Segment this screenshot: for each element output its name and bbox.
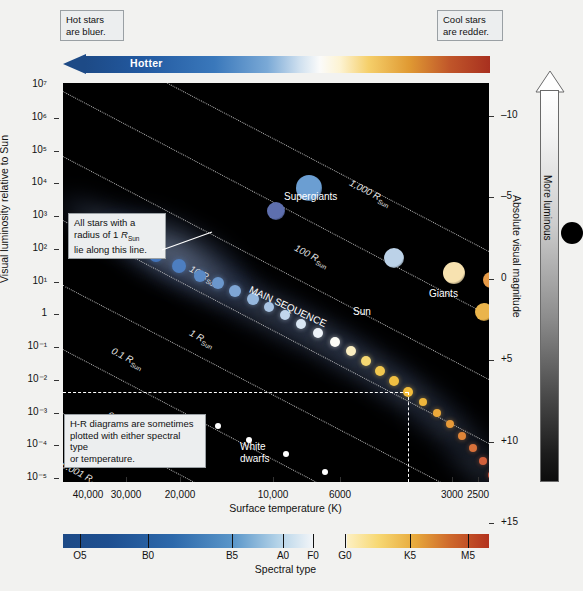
star-marker	[458, 432, 466, 440]
star-marker	[194, 270, 206, 282]
spectral-tick-mark	[283, 534, 284, 548]
x-tick-label: 30,000	[111, 489, 142, 500]
spectral-tick-mark	[313, 534, 314, 548]
y-tick-mark	[54, 347, 59, 348]
y-tick-label: 10¹	[33, 275, 47, 286]
right-tick-label: +15	[501, 516, 518, 527]
giants-label: Giants	[429, 288, 458, 299]
star-marker	[361, 356, 371, 366]
right-tick-label: 0	[501, 272, 507, 283]
star-marker	[229, 285, 241, 297]
star-marker	[267, 202, 285, 220]
spectral-type-label: B5	[226, 550, 238, 561]
spectral-type-label: B0	[142, 550, 154, 561]
spectral-type-title: Spectral type	[0, 563, 571, 575]
y-tick-label: 10⁷	[32, 78, 47, 89]
spectral-type-label: K5	[404, 550, 416, 561]
spectral-tick-mark	[410, 534, 411, 548]
star-marker	[375, 366, 385, 376]
x-tick-label: 10,000	[258, 489, 289, 500]
star-marker	[475, 303, 489, 321]
x-tick-mark	[340, 477, 341, 482]
x-tick-mark	[478, 477, 479, 482]
spectral-type-label: F0	[307, 550, 319, 561]
x-tick-label: 40,000	[73, 489, 104, 500]
spectral-tick-mark	[148, 534, 149, 548]
y-axis: Visual luminosity relative to Sun 10⁷10⁶…	[0, 83, 59, 482]
right-tick-label: –10	[501, 109, 518, 120]
x-tick-mark	[180, 477, 181, 482]
star-marker	[443, 262, 465, 284]
sun-label: Sun	[353, 306, 371, 317]
star-marker	[172, 259, 186, 273]
star-marker	[433, 409, 441, 417]
y-tick-mark	[54, 478, 59, 479]
star-marker	[212, 277, 224, 289]
x-axis: 40,00030,00020,00010,000600030002500	[0, 482, 571, 502]
spectral-type-label: O5	[73, 550, 86, 561]
right-tick-mark	[489, 116, 494, 117]
y-tick-label: 10²	[33, 242, 47, 253]
right-tick-mark	[489, 360, 494, 361]
y-tick-label: 10⁶	[32, 111, 47, 122]
y-tick-label: 10³	[33, 209, 47, 220]
spectral-bar-ob	[63, 534, 313, 548]
spectral-tick-mark	[345, 534, 346, 548]
star-marker	[446, 420, 454, 428]
ms-haze	[457, 465, 489, 482]
star-marker	[479, 457, 487, 465]
star-marker	[469, 444, 477, 452]
y-tick-mark	[54, 151, 59, 152]
sun-temperature-guide	[408, 392, 409, 482]
x-tick-mark	[273, 477, 274, 482]
star-marker	[346, 346, 356, 356]
spectral-tick-mark	[468, 534, 469, 548]
right-tick-mark	[489, 523, 494, 524]
y-tick-mark	[54, 183, 59, 184]
star-marker	[389, 376, 399, 386]
y-tick-mark	[54, 380, 59, 381]
y-tick-mark	[54, 445, 59, 446]
temperature-gradient-arrow	[63, 56, 490, 73]
callout-leader-line	[160, 230, 216, 252]
hot-stars-callout: Hot stars are bluer.	[60, 10, 124, 41]
spectral-tick-mark	[80, 534, 81, 548]
supergiants-label: Supergiants	[284, 191, 337, 202]
spectral-type-bar	[63, 534, 489, 548]
x-tick-label: 20,000	[165, 489, 196, 500]
y-tick-label: 10⁻³	[28, 406, 47, 417]
luminosity-gradient-shaft	[540, 90, 559, 482]
arrow-head-icon	[63, 54, 86, 74]
hotter-label: Hotter	[130, 57, 163, 69]
x-tick-label: 3000	[441, 489, 463, 500]
y-tick-label: 10⁴	[32, 176, 47, 187]
more-luminous-arrow	[535, 70, 565, 482]
y-tick-label: 10⁻⁵	[27, 471, 47, 482]
y-tick-mark	[54, 249, 59, 250]
more-luminous-label: More luminous	[542, 175, 553, 241]
y-axis-label: Visual luminosity relative to Sun	[0, 135, 10, 283]
y-tick-label: 1	[41, 307, 47, 318]
star-marker	[215, 423, 221, 429]
spectral-type-label: M5	[461, 550, 475, 561]
white-dwarfs-label: Whitedwarfs	[240, 441, 269, 465]
right-tick-label: +5	[501, 353, 512, 364]
right-tick-mark	[489, 279, 494, 280]
y-tick-mark	[54, 216, 59, 217]
x-tick-mark	[452, 477, 453, 482]
right-axis-label: Absolute visual magnitude	[511, 195, 523, 318]
x-tick-mark	[88, 477, 89, 482]
right-tick-mark	[489, 442, 494, 443]
ms-haze	[426, 423, 489, 482]
y-tick-label: 10⁻¹	[28, 340, 47, 351]
right-axis: –10–50+5+10+15	[489, 83, 529, 482]
star-marker	[419, 398, 427, 406]
y-tick-mark	[54, 314, 59, 315]
x-tick-label: 2500	[467, 489, 489, 500]
star-marker	[283, 451, 289, 457]
cool-stars-callout: Cool stars are redder.	[437, 10, 503, 41]
x-tick-mark	[126, 477, 127, 482]
right-tick-mark	[489, 197, 494, 198]
one-solar-radius-callout: All stars with aradius of 1 RSunlie alon…	[68, 213, 166, 259]
